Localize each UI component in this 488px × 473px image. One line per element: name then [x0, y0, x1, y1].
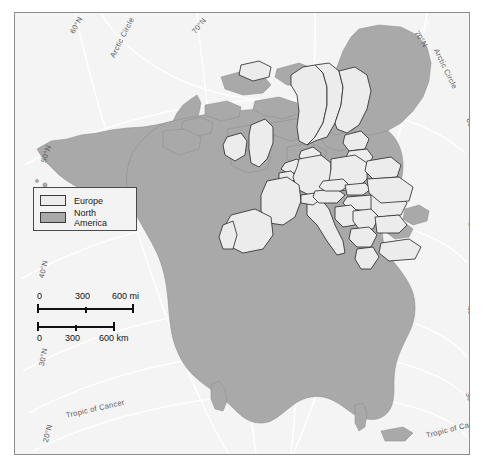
scale-mi-tick-300: 300 — [75, 291, 90, 301]
europe-swatch — [40, 195, 66, 206]
scale-km-tick-600: 600 km — [99, 333, 129, 343]
scale-km-tick-300: 300 — [65, 333, 80, 343]
scale-mi-tick-600: 600 mi — [112, 291, 139, 301]
scale-km-tick-0: 0 — [37, 333, 42, 343]
legend-item-europe: Europe — [40, 193, 130, 208]
map-frame: 60°N70°NArctic Circle70°NArctic Circle50… — [14, 12, 470, 455]
scale-km-labels: 0 300 600 km — [37, 333, 152, 345]
scale-mi-tick-0: 0 — [37, 291, 42, 301]
legend-item-north-america: North America — [40, 210, 130, 225]
map-legend: Europe North America — [33, 187, 137, 231]
scale-miles-labels: 0 300 600 mi — [37, 291, 152, 303]
legend-label-europe: Europe — [74, 196, 103, 206]
map-canvas — [15, 13, 469, 454]
scale-miles-bar — [37, 304, 152, 313]
map-figure: 60°N70°NArctic Circle70°NArctic Circle50… — [0, 0, 488, 473]
scale-km-bar — [37, 322, 152, 331]
north-america-swatch — [40, 212, 66, 223]
legend-label-north-america: North America — [74, 208, 130, 228]
map-scale-bars: 0 300 600 mi 0 300 600 km — [37, 291, 152, 345]
